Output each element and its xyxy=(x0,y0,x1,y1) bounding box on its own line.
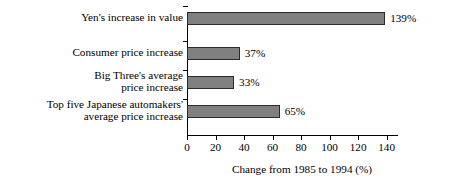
bar-chart: Yen's increase in valueConsumer price in… xyxy=(0,0,449,189)
bar xyxy=(187,47,240,60)
x-axis-line xyxy=(187,135,398,136)
plot-area: 139%37%33%65% 020406080100120140 xyxy=(187,12,398,136)
y-axis-tick xyxy=(183,99,188,100)
category-label: Top five Japanese automakers' average pr… xyxy=(0,98,183,123)
x-axis-tick-label: 0 xyxy=(172,141,202,154)
bar xyxy=(187,76,234,89)
category-label: Consumer price increase xyxy=(0,46,183,59)
x-axis-tick-label: 80 xyxy=(286,141,316,154)
x-axis-tick-label: 100 xyxy=(315,141,345,154)
bar-value-label: 139% xyxy=(390,12,416,25)
category-label: Big Three's average price increase xyxy=(0,69,183,94)
bar xyxy=(187,105,280,118)
x-axis-tick xyxy=(358,136,359,140)
bar-value-label: 65% xyxy=(285,105,306,118)
x-axis-tick xyxy=(330,136,331,140)
bar-value-label: 37% xyxy=(245,47,266,60)
x-axis-tick xyxy=(273,136,274,140)
x-axis-tick-label: 120 xyxy=(343,141,373,154)
y-axis-tick xyxy=(183,70,188,71)
x-axis-tick xyxy=(387,136,388,140)
x-axis-title: Change from 1985 to 1994 (%) xyxy=(187,163,417,176)
category-label: Yen's increase in value xyxy=(0,11,183,24)
x-axis-tick xyxy=(187,136,188,140)
x-axis-tick-label: 140 xyxy=(372,141,402,154)
category-axis-labels: Yen's increase in valueConsumer price in… xyxy=(0,0,183,135)
x-axis-tick-label: 60 xyxy=(258,141,288,154)
x-axis-tick xyxy=(301,136,302,140)
bar-value-label: 33% xyxy=(239,76,260,89)
x-axis-tick-label: 40 xyxy=(229,141,259,154)
x-axis-tick xyxy=(244,136,245,140)
x-axis-tick-label: 20 xyxy=(201,141,231,154)
y-axis-tick xyxy=(183,6,188,7)
x-axis-tick xyxy=(216,136,217,140)
y-axis-tick xyxy=(183,41,188,42)
bar xyxy=(187,12,385,25)
